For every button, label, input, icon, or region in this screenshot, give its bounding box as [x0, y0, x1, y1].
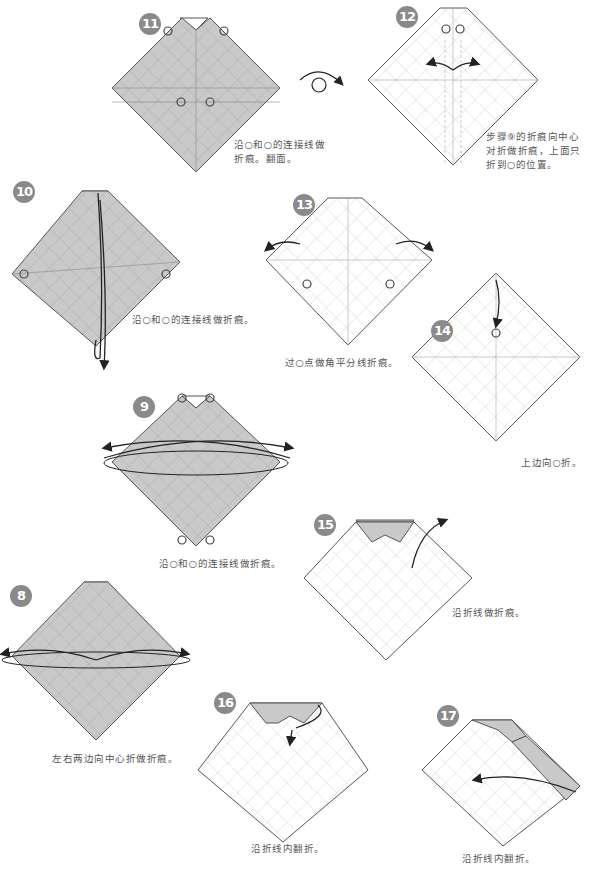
step-8-paper [2, 582, 190, 740]
step-14-paper [412, 273, 580, 441]
step-caption-8: 左右两边向中心折做折痕。 [52, 752, 178, 766]
step-13-paper [266, 198, 432, 345]
step-15-paper [304, 520, 472, 660]
turn-over-arrow-icon [300, 72, 342, 92]
step-caption-16: 沿折线内翻折。 [251, 842, 325, 856]
step-badge-15: 15 [314, 514, 336, 536]
step-badge-17: 17 [437, 705, 459, 727]
step-badge-12: 12 [396, 6, 418, 28]
step-16-paper [198, 703, 368, 842]
step-10-paper [12, 191, 180, 368]
step-badge-14: 14 [431, 320, 453, 342]
step-badge-9: 9 [133, 396, 155, 418]
step-caption-13: 过○点做角平分线折痕。 [285, 356, 399, 370]
step-badge-16: 16 [214, 692, 236, 714]
step-badge-8: 8 [10, 585, 32, 607]
step-17-paper [422, 720, 580, 846]
reference-circle-icon [178, 536, 186, 544]
step-caption-12: 步骤⑨的折痕向中心 对折做折痕，上面只 折到○的位置。 [486, 130, 581, 172]
step-caption-10: 沿○和○的连接线做折痕。 [132, 313, 255, 327]
step-badge-10: 10 [13, 181, 35, 203]
step-caption-9: 沿○和○的连接线做折痕。 [159, 557, 282, 571]
step-caption-11: 沿○和○的连接线做 折痕。翻面。 [234, 138, 325, 166]
step-caption-17: 沿折线内翻折。 [462, 852, 536, 866]
step-badge-13: 13 [293, 194, 315, 216]
step-9-paper [104, 394, 292, 546]
step-badge-11: 11 [139, 13, 161, 35]
reference-circle-icon [206, 536, 214, 544]
step-caption-14: 上边向○折。 [521, 456, 582, 470]
step-caption-15: 沿折线做折痕。 [452, 606, 526, 620]
